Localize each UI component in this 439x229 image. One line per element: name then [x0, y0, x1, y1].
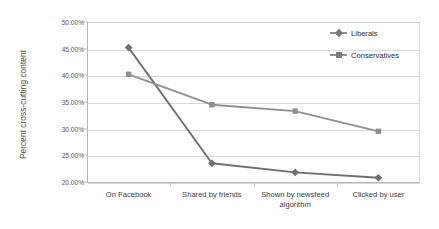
y-axis-tick-label: 50.00%	[42, 19, 84, 26]
x-axis-tick-label: On Facebook	[87, 186, 170, 226]
legend: Liberals Conservatives	[330, 22, 438, 66]
x-axis-tick-mark	[170, 182, 171, 186]
line-chart: Percent cross-cutting content 20.00%25.0…	[0, 0, 439, 229]
gridline	[88, 103, 419, 104]
y-axis-tick-label: 45.00%	[42, 45, 84, 52]
x-axis-tick-label: Clicked by user	[337, 186, 420, 226]
gridline	[88, 76, 419, 77]
y-axis-title: Percent cross-cutting content	[19, 20, 28, 190]
legend-label-liberals: Liberals	[351, 29, 378, 38]
x-axis-tick-mark	[337, 182, 338, 186]
y-axis-tick-label: 25.00%	[42, 152, 84, 159]
legend-item-liberals[interactable]: Liberals	[330, 22, 438, 44]
y-axis-tick-label: 30.00%	[42, 125, 84, 132]
gridline	[88, 130, 419, 131]
conservatives-marker-icon	[330, 51, 347, 59]
y-axis-tick-label: 20.00%	[42, 179, 84, 186]
y-axis-tick-label: 40.00%	[42, 72, 84, 79]
liberals-marker-icon	[330, 29, 347, 37]
x-axis-tick-label: Shared by friends	[170, 186, 253, 226]
x-axis-tick-mark	[254, 182, 255, 186]
legend-item-conservatives[interactable]: Conservatives	[330, 44, 438, 66]
gridline	[88, 156, 419, 157]
x-axis-labels: On FacebookShared by friendsShown by new…	[87, 186, 420, 226]
y-axis-tick-group: 20.00%25.00%30.00%35.00%40.00%45.00%50.0…	[38, 22, 84, 182]
y-axis-tick-label: 35.00%	[42, 99, 84, 106]
x-axis-tick-label: Shown by newsfeed algorithm	[254, 186, 337, 226]
legend-label-conservatives: Conservatives	[351, 51, 399, 60]
